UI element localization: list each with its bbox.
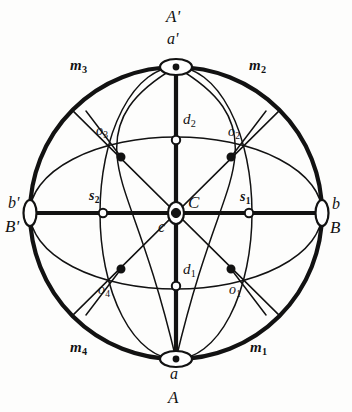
label-o3: o3 xyxy=(96,124,108,140)
node-s2 xyxy=(99,209,107,217)
label-s2: s2 xyxy=(89,189,99,205)
label-m4: m4 xyxy=(70,340,87,357)
node-o4 xyxy=(117,265,125,273)
label-a: a xyxy=(170,366,178,382)
label-m3: m3 xyxy=(70,58,87,75)
label-C: C xyxy=(188,194,199,211)
node-s1 xyxy=(245,209,253,217)
figure-canvas: A' a' a A b' B' b B C c m3 m2 m1 m4 o3 o… xyxy=(0,0,352,412)
label-B-prime: B' xyxy=(5,218,19,235)
node-d1 xyxy=(172,282,180,290)
node-o3 xyxy=(117,153,125,161)
node-o1 xyxy=(227,265,235,273)
label-b-prime: b' xyxy=(8,195,19,211)
node-d2 xyxy=(172,136,180,144)
label-m1: m1 xyxy=(250,340,267,357)
diagram-svg xyxy=(0,0,352,412)
pole-marker-left xyxy=(24,200,37,226)
node-a-bottom xyxy=(173,356,180,363)
label-o2: o2 xyxy=(228,125,240,141)
center-node xyxy=(168,202,184,224)
pole-marker-right xyxy=(316,200,329,226)
label-B: B xyxy=(330,219,340,236)
label-s1: s1 xyxy=(240,190,250,206)
label-A-prime: A' xyxy=(166,8,180,25)
node-o2 xyxy=(227,153,235,161)
label-A: A xyxy=(168,389,178,406)
label-d2: d2 xyxy=(183,112,196,129)
label-c: c xyxy=(158,219,165,235)
node-a-top xyxy=(173,64,180,71)
label-a-prime: a' xyxy=(167,31,178,47)
label-o1: o1 xyxy=(229,283,241,299)
label-d1: d1 xyxy=(183,262,196,279)
label-m2: m2 xyxy=(249,58,266,75)
label-b: b xyxy=(332,196,340,212)
label-o4: o4 xyxy=(98,283,110,299)
